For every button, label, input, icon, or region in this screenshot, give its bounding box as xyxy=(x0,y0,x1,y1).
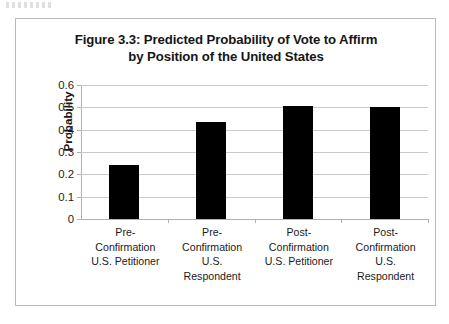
y-tick-mark-0.2 xyxy=(77,174,81,175)
category-label-line: Pre- xyxy=(82,225,169,240)
category-label: Post-ConfirmationU.S. Petitioner xyxy=(256,225,343,269)
bar xyxy=(283,106,313,219)
x-tick-mark xyxy=(341,219,342,223)
y-tick-mark-0.4 xyxy=(77,130,81,131)
bar xyxy=(370,107,400,219)
category-label-line: Pre- xyxy=(169,225,256,240)
chart-title-line-2: by Position of the United States xyxy=(32,48,420,65)
category-label-line: Confirmation xyxy=(256,240,343,255)
category-label-line: Confirmation xyxy=(82,240,169,255)
category-label-line: Post- xyxy=(342,225,429,240)
category-label-line: Respondent xyxy=(169,269,256,284)
bar xyxy=(196,122,226,219)
y-tick-label-0: 0 xyxy=(68,213,74,225)
gridline-0.6 xyxy=(81,85,428,86)
x-axis-category-labels: Pre-ConfirmationU.S. PetitionerPre-Confi… xyxy=(82,225,428,303)
x-tick-mark xyxy=(168,219,169,223)
figure-frame: Figure 3.3: Predicted Probability of Vot… xyxy=(15,18,436,306)
category-label-line: U.S. Petitioner xyxy=(82,254,169,269)
category-label: Pre-ConfirmationU.S.Respondent xyxy=(169,225,256,283)
y-tick-mark-0.5 xyxy=(77,107,81,108)
category-label-line: U.S. xyxy=(342,254,429,269)
category-label: Pre-ConfirmationU.S. Petitioner xyxy=(82,225,169,269)
chart-title-line-1: Figure 3.3: Predicted Probability of Vot… xyxy=(32,31,420,48)
category-label-line: Confirmation xyxy=(169,240,256,255)
category-label-line: U.S. Petitioner xyxy=(256,254,343,269)
y-tick-label-0.6: 0.6 xyxy=(58,79,74,91)
category-label-line: Post- xyxy=(256,225,343,240)
category-label-line: Confirmation xyxy=(342,240,429,255)
y-tick-mark-0.1 xyxy=(77,197,81,198)
chart-title: Figure 3.3: Predicted Probability of Vot… xyxy=(32,31,420,65)
bar xyxy=(109,165,139,219)
y-tick-label-0.1: 0.1 xyxy=(58,191,74,203)
category-label: Post-ConfirmationU.S.Respondent xyxy=(342,225,429,283)
y-tick-mark-0.6 xyxy=(77,85,81,86)
category-label-line: U.S. xyxy=(169,254,256,269)
y-tick-label-0.4: 0.4 xyxy=(58,124,74,136)
x-tick-mark xyxy=(428,219,429,223)
x-tick-mark xyxy=(255,219,256,223)
y-tick-label-0.3: 0.3 xyxy=(58,146,74,158)
y-tick-mark-0.3 xyxy=(77,152,81,153)
y-tick-label-0.5: 0.5 xyxy=(58,101,74,113)
y-tick-mark-0 xyxy=(77,219,81,220)
category-label-line: Respondent xyxy=(342,269,429,284)
plot-area: 00.10.20.30.40.50.6 xyxy=(81,85,428,219)
y-tick-label-0.2: 0.2 xyxy=(58,168,74,180)
scan-artifact xyxy=(6,2,52,8)
